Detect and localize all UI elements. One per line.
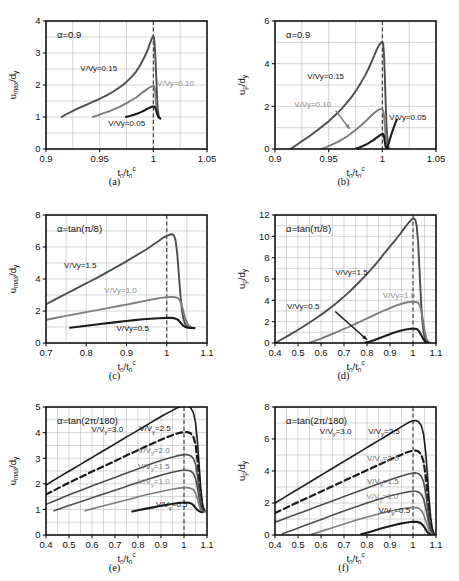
svg-text:2: 2	[264, 497, 269, 508]
alpha-label-a: α=0.9	[57, 29, 81, 40]
y-axis-title-a: umax/dy	[7, 70, 20, 99]
svg-text:8: 8	[35, 209, 40, 220]
svg-text:0.8: 0.8	[360, 539, 373, 550]
y-axis-title-c: umax/dy	[7, 264, 20, 293]
svg-text:2: 2	[264, 101, 269, 112]
curve-label: V/Vy=3.0	[92, 425, 124, 435]
svg-text:2: 2	[264, 316, 269, 327]
svg-text:0.8: 0.8	[360, 347, 373, 358]
svg-text:1.1: 1.1	[200, 347, 213, 358]
curve-label: V/Vy=1.5	[367, 477, 399, 487]
svg-text:1: 1	[35, 111, 40, 122]
svg-text:0: 0	[35, 337, 40, 348]
curves-b	[291, 42, 397, 149]
curve	[46, 234, 192, 328]
chart-panel-f: 0.40.50.60.70.80.911.102468α=tan(2π/180)…	[229, 388, 458, 581]
curve-label: V/Vy=1.5	[335, 268, 368, 277]
svg-text:1: 1	[151, 153, 156, 164]
svg-text:3: 3	[35, 453, 40, 464]
curve	[291, 42, 390, 149]
curve	[361, 522, 430, 535]
svg-text:0.5: 0.5	[62, 539, 75, 550]
svg-text:6: 6	[264, 273, 269, 284]
svg-text:6: 6	[35, 241, 40, 252]
alpha-label-f: α=tan(2π/180)	[286, 415, 347, 426]
curve	[275, 473, 434, 535]
curve-label: V/Vy=1.5	[138, 462, 170, 472]
svg-text:0.4: 0.4	[39, 539, 52, 550]
panel-caption-e: (e)	[0, 562, 229, 573]
alpha-label-b: α=0.9	[286, 29, 310, 40]
svg-text:0: 0	[264, 529, 269, 540]
curve-label: V/Vy=1.0	[104, 286, 137, 295]
curve	[387, 120, 397, 149]
plot-svg-b: 0.90.9511.050246α=0.9V/Vy=0.15V/Vy=0.10V…	[229, 2, 458, 178]
svg-text:0.95: 0.95	[90, 153, 109, 164]
svg-text:10: 10	[259, 231, 270, 242]
svg-text:4: 4	[35, 15, 40, 26]
svg-text:0.8: 0.8	[80, 347, 93, 358]
curves-d	[276, 218, 430, 342]
plot-svg-c: 0.70.80.911.102468α=tan(π/8)V/Vy=1.5V/Vy…	[0, 196, 229, 372]
panel-caption-c: (c)	[0, 370, 229, 381]
curve-label: V/Vy=2.0	[367, 454, 399, 464]
svg-text:0.9: 0.9	[383, 347, 396, 358]
gridlines-f	[275, 407, 436, 535]
alpha-label-d: α=tan(π/8)	[286, 223, 331, 234]
svg-text:0: 0	[264, 337, 269, 348]
svg-text:4: 4	[35, 273, 40, 284]
svg-text:0.4: 0.4	[268, 539, 281, 550]
svg-text:0.6: 0.6	[85, 539, 98, 550]
curve-label: V/Vy=0.5	[287, 302, 320, 311]
curve-label: V/Vy=0.15	[307, 72, 344, 81]
curve-label: V/Vy=1.0	[367, 492, 399, 502]
svg-text:0.9: 0.9	[39, 153, 52, 164]
curve-label: V/Vy=0.10	[294, 100, 331, 109]
svg-text:6: 6	[264, 15, 269, 26]
svg-text:0.9: 0.9	[154, 539, 167, 550]
y-axis-title-f: up/dy	[236, 460, 249, 481]
svg-text:2: 2	[35, 478, 40, 489]
alpha-label-c: α=tan(π/8)	[57, 223, 102, 234]
svg-text:1: 1	[181, 539, 186, 550]
figure-root: 0.90.9511.0501234α=0.9V/Vy=0.15V/Vy=0.10…	[0, 0, 459, 581]
svg-text:2: 2	[35, 305, 40, 316]
svg-text:4: 4	[264, 58, 269, 69]
curve-label: V/Vy=0.10	[157, 79, 194, 88]
curves-c	[46, 234, 195, 328]
svg-text:4: 4	[264, 465, 269, 476]
plot-svg-e: 0.40.50.60.70.80.911.1012345α=tan(2π/180…	[0, 388, 229, 564]
curve	[365, 329, 428, 343]
panel-caption-d: (d)	[229, 370, 458, 381]
annotation-arrow	[336, 111, 350, 129]
curve-label: V/Vy=1.0	[138, 477, 170, 487]
svg-text:0.9: 0.9	[120, 347, 133, 358]
svg-text:6: 6	[264, 433, 269, 444]
svg-text:1.05: 1.05	[198, 153, 217, 164]
plot-svg-f: 0.40.50.60.70.80.911.102468α=tan(2π/180)…	[229, 388, 458, 564]
plot-svg-a: 0.90.9511.0501234α=0.9V/Vy=0.15V/Vy=0.10…	[0, 2, 229, 178]
svg-text:1.1: 1.1	[429, 347, 442, 358]
chart-panel-c: 0.70.80.911.102468α=tan(π/8)V/Vy=1.5V/Vy…	[0, 196, 229, 390]
svg-text:1: 1	[164, 347, 169, 358]
curves-a	[62, 36, 161, 119]
svg-text:0.5: 0.5	[291, 539, 304, 550]
curve-label: V/Vy=0.5	[156, 500, 188, 510]
curve-label: V/Vy=2.0	[138, 446, 170, 456]
curve	[46, 297, 195, 328]
curve	[126, 106, 160, 118]
curve-label: V/Vy=0.5	[116, 324, 149, 333]
curve-label: V/Vy=1.5	[64, 261, 97, 270]
svg-text:1.1: 1.1	[200, 539, 213, 550]
chart-panel-b: 0.90.9511.050246α=0.9V/Vy=0.15V/Vy=0.10V…	[229, 2, 458, 196]
svg-text:4: 4	[35, 427, 40, 438]
svg-text:0: 0	[35, 529, 40, 540]
svg-text:0.7: 0.7	[337, 347, 350, 358]
y-axis-title-b: up/dy	[236, 74, 249, 95]
svg-text:0.9: 0.9	[268, 153, 281, 164]
svg-text:3: 3	[35, 47, 40, 58]
curve	[276, 218, 428, 342]
svg-text:1: 1	[410, 347, 415, 358]
panel-caption-b: (b)	[229, 176, 458, 187]
svg-text:2: 2	[35, 79, 40, 90]
